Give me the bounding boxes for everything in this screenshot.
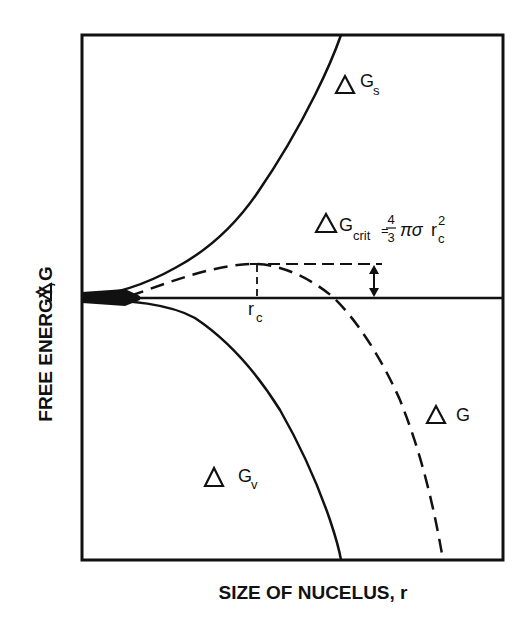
svg-text:G: G — [360, 71, 374, 91]
svg-text:r: r — [248, 299, 254, 319]
svg-text:πσ: πσ — [400, 220, 424, 240]
svg-text:3: 3 — [387, 230, 394, 245]
x-axis-label: SIZE OF NUCELUS, r — [219, 582, 409, 603]
critical-energy-formula: G crit = 4 3 πσ r c 2 — [316, 212, 445, 246]
svg-text:s: s — [373, 83, 380, 98]
delta-icon — [316, 214, 336, 232]
volume-energy-label: G v — [205, 466, 258, 492]
svg-text:FREE ENERGY,: FREE ENERGY, — [35, 282, 56, 421]
total-free-energy-curve — [130, 264, 443, 560]
delta-icon — [205, 468, 223, 486]
svg-text:G: G — [238, 466, 252, 486]
svg-text:c: c — [256, 310, 263, 325]
delta-icon — [427, 406, 445, 423]
delta-icon — [336, 76, 354, 93]
nucleation-free-energy-diagram: FREE ENERGY, G SIZE OF NUCELUS, r G s G … — [0, 0, 529, 631]
svg-text:2: 2 — [438, 213, 445, 228]
y-axis-label: FREE ENERGY, — [35, 282, 56, 421]
critical-radius-label: r c — [248, 299, 263, 325]
svg-text:4: 4 — [387, 212, 394, 227]
svg-text:c: c — [438, 231, 445, 246]
surface-energy-curve — [84, 35, 341, 297]
svg-text:G: G — [456, 405, 470, 425]
svg-text:G: G — [35, 266, 56, 281]
svg-text:G: G — [339, 215, 353, 235]
volume-energy-curve — [84, 299, 341, 560]
surface-energy-label: G s — [336, 71, 380, 98]
svg-text:v: v — [251, 477, 258, 492]
critical-energy-double-arrow — [369, 265, 379, 297]
svg-text:crit: crit — [353, 228, 371, 243]
total-free-energy-label: G — [427, 405, 470, 425]
svg-text:r: r — [431, 220, 437, 240]
